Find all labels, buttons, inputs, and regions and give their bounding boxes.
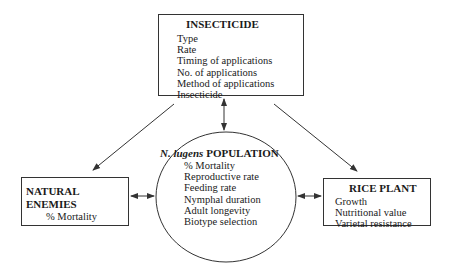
natural-enemies-box: NATURAL ENEMIES % Mortality	[21, 177, 129, 226]
insecticide-item: Method of applications	[177, 78, 303, 89]
population-item: Reproductive rate	[184, 171, 300, 182]
insecticide-item: Rate	[177, 44, 303, 55]
insecticide-item: Timing of applications	[177, 55, 303, 66]
insecticide-item: Insecticide	[177, 89, 303, 100]
population-item: Feeding rate	[184, 182, 300, 193]
population-item: Biotype selection	[184, 216, 300, 227]
insecticide-item: Type	[177, 33, 303, 44]
rice-plant-item: Growth	[335, 196, 430, 207]
rice-plant-item: Nutritional value	[335, 207, 430, 218]
natural-enemies-title: NATURAL ENEMIES	[26, 185, 128, 211]
population-node: N. lugens POPULATION % Mortality Reprodu…	[160, 147, 300, 227]
insecticide-title: INSECTICIDE	[177, 18, 303, 31]
species-name: N. lugens	[160, 147, 203, 159]
population-item: Nymphal duration	[184, 194, 300, 205]
population-item: Adult longevity	[184, 205, 300, 216]
rice-plant-title: RICE PLANT	[335, 182, 430, 195]
rice-plant-box: RICE PLANT Growth Nutritional value Vari…	[323, 178, 431, 226]
population-title-rest: POPULATION	[203, 147, 278, 159]
rice-plant-item: Varietal resistance	[335, 218, 430, 229]
population-title: N. lugens POPULATION	[160, 147, 300, 160]
insecticide-item: No. of applications	[177, 67, 303, 78]
population-item: % Mortality	[184, 160, 300, 171]
insecticide-box: INSECTICIDE Type Rate Timing of applicat…	[158, 14, 304, 96]
natural-enemies-item: % Mortality	[46, 211, 128, 222]
